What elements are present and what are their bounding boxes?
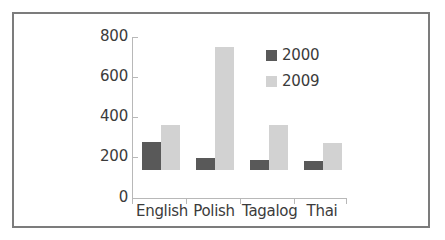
y-tick-label-600: 600 [82,69,128,84]
y-tick-label-800-wrap: 800 [70,29,128,45]
y-tick-label-200-wrap: 200 [70,149,128,165]
legend-swatch-2000-icon [266,50,277,61]
legend-label-2009: 2009 [282,74,319,89]
bar-tagalog-2000[interactable] [250,160,269,170]
legend-item-2009[interactable]: 2009 [266,68,376,94]
y-tick-label-600-wrap: 600 [70,69,128,85]
chart-frame: 800 600 400 200 0 [12,12,430,228]
y-tick-label-0: 0 [82,190,128,205]
bar-group-polish [192,9,236,170]
y-tick-label-800: 800 [82,29,128,44]
x-axis-line [132,198,346,199]
bar-english-2009[interactable] [161,125,180,170]
bar-group-english [138,9,182,170]
legend-label-2000: 2000 [282,48,319,63]
x-tick-0 [132,198,133,204]
x-tick-2 [240,198,241,204]
bar-polish-2009[interactable] [215,47,234,170]
bar-tagalog-2009[interactable] [269,125,288,170]
y-tick-label-200: 200 [82,149,128,164]
legend-item-2000[interactable]: 2000 [266,42,376,68]
y-tick-label-400: 400 [82,109,128,124]
chart-legend: 2000 2009 [266,42,376,94]
x-tick-4 [346,198,347,204]
bar-english-2000[interactable] [142,142,161,170]
x-axis-label-tagalog: Tagalog [242,204,294,219]
y-tick-label-400-wrap: 400 [70,109,128,125]
bar-polish-2000[interactable] [196,158,215,170]
x-axis-label-polish: Polish [192,204,236,219]
x-axis-label-english: English [136,204,184,219]
y-tick-label-0-wrap: 0 [70,190,128,206]
bar-thai-2009[interactable] [323,143,342,170]
x-axis-label-thai: Thai [302,204,342,219]
plot-area: 800 600 400 200 0 [14,14,428,226]
bar-thai-2000[interactable] [304,161,323,170]
legend-swatch-2009-icon [266,76,277,87]
